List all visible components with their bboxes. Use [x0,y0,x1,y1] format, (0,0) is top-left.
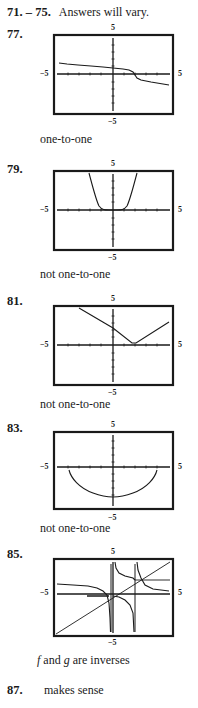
ymax-label: 5 [111,294,115,303]
problem-number-85: 85. [7,547,23,562]
xmin-label: −5 [40,588,49,597]
problem-number-77: 77. [7,27,23,42]
caption-g: g [64,653,70,667]
xmax-label: 5 [178,462,182,471]
graph-77: 5 −5 5 −5 [53,34,174,115]
graph-85: 5 −5 5 −5 [53,558,174,637]
problem-number-81: 81. [7,294,23,309]
xmax-label: 5 [178,205,182,214]
caption-f: f [37,653,40,667]
ymin-label: −5 [108,117,117,126]
problem-number-79: 79. [7,162,23,177]
caption-79: not one-to-one [40,267,110,282]
caption-and: and [43,653,60,667]
graph-79: 5 −5 5 −5 [53,170,174,251]
xmax-label: 5 [178,69,182,78]
graph-81: 5 −5 5 −5 [53,305,174,386]
ymax-label: 5 [111,23,115,32]
caption-83: not one-to-one [40,521,110,536]
problem-number-83: 83. [7,421,23,436]
plot-79 [53,170,174,251]
caption-85: f and g are inverses [37,653,130,668]
header-line: 71. – 75. Answers will vary. [7,2,149,20]
graph-83: 5 −5 5 −5 [53,431,174,512]
plot-81 [53,305,174,386]
ymin-label: −5 [108,253,117,262]
caption-87: makes sense [44,683,104,698]
xmin-label: −5 [40,69,49,78]
plot-85 [53,558,174,637]
ymin-label: −5 [108,638,117,647]
ymax-label: 5 [111,159,115,168]
xmax-label: 5 [178,588,182,597]
plot-83 [53,431,174,510]
caption-81: not one-to-one [40,397,110,412]
caption-rest: are inverses [73,653,130,667]
xmax-label: 5 [178,340,182,349]
problem-number-87: 87. [7,683,23,698]
ymin-label: −5 [108,388,117,397]
range-text: Answers will vary. [59,5,149,19]
ymax-label: 5 [111,420,115,429]
xmin-label: −5 [40,340,49,349]
caption-77: one-to-one [40,132,92,147]
plot-77 [53,34,174,115]
xmin-label: −5 [40,205,49,214]
ymax-label: 5 [111,547,115,556]
range-label: 71. – 75. [7,5,51,19]
xmin-label: −5 [40,462,49,471]
